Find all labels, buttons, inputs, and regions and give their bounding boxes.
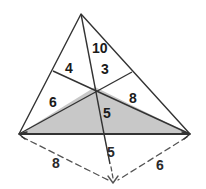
dimension-label-5: 5	[107, 145, 115, 159]
area-label-6: 6	[49, 95, 57, 109]
triangle-diagram: 10 4 3 6 8 5 5 8 6	[0, 0, 206, 189]
arrowhead-bottom-left	[19, 132, 27, 139]
dashed-leg-left	[22, 137, 108, 180]
area-label-4: 4	[65, 61, 73, 75]
area-label-5: 5	[103, 106, 111, 120]
dimension-label-8: 8	[52, 156, 60, 170]
diagram-canvas	[0, 0, 206, 189]
dashed-cevian-stub	[111, 167, 113, 178]
area-label-8: 8	[129, 91, 137, 105]
arrowhead-bottom-right	[182, 132, 190, 139]
dimension-label-6: 6	[156, 158, 164, 172]
area-label-10: 10	[92, 41, 108, 55]
dashed-leg-right	[118, 137, 187, 180]
area-label-3: 3	[101, 62, 109, 76]
